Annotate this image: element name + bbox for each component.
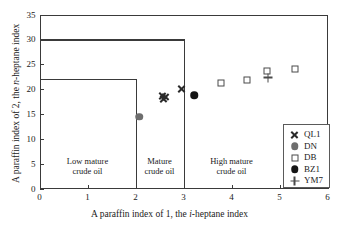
data-point-ym7 xyxy=(263,73,272,82)
data-point-dn xyxy=(136,113,144,121)
scatter-chart: 012345605101520253035 Low maturecrude oi… xyxy=(0,0,339,230)
x-axis-title: A paraffin index of 1, the i-heptane ind… xyxy=(0,209,339,219)
data-point-ql1 xyxy=(177,84,186,93)
y-tick xyxy=(40,89,44,90)
legend-marker-glyph xyxy=(291,166,299,174)
y-tick xyxy=(40,139,44,140)
y-axis-title-part1: A paraffin index of 2, the xyxy=(11,84,21,182)
region-label: High maturecrude oil xyxy=(210,156,253,177)
boundary-line-horizontal xyxy=(40,39,184,40)
data-point-bz1 xyxy=(190,91,198,99)
x-tick xyxy=(88,185,89,189)
legend-label: YM7 xyxy=(304,175,323,186)
y-tick-label: 35 xyxy=(18,10,36,19)
y-tick xyxy=(40,164,44,165)
legend-marker-dn xyxy=(289,141,300,152)
data-point-ql1 xyxy=(161,93,170,102)
legend-marker-ql1 xyxy=(289,129,300,140)
legend-label: DB xyxy=(304,152,317,163)
x-axis-title-part2: -heptane index xyxy=(192,209,248,219)
region-label-line2: crude oil xyxy=(210,166,253,177)
region-label-line1: Low mature xyxy=(67,156,108,167)
boundary-line-horizontal xyxy=(40,79,136,80)
x-tick-label: 1 xyxy=(85,193,90,202)
legend-marker-glyph xyxy=(290,176,299,185)
x-tick-label: 0 xyxy=(37,193,42,202)
legend-marker-bz1 xyxy=(289,164,300,175)
legend-item-ql1[interactable]: QL1 xyxy=(289,129,321,140)
chart-legend: QL1DNDBBZ1YM7 xyxy=(283,124,330,188)
x-tick-label: 3 xyxy=(181,193,186,202)
y-axis-title-part2: -heptane index xyxy=(11,23,21,79)
y-tick-label: 0 xyxy=(18,184,36,193)
legend-item-bz1[interactable]: BZ1 xyxy=(289,164,320,175)
y-tick xyxy=(40,15,44,16)
legend-marker-glyph xyxy=(290,130,299,139)
legend-marker-glyph xyxy=(291,142,299,150)
legend-label: DN xyxy=(304,141,317,152)
region-label-line2: crude oil xyxy=(67,166,108,177)
data-point-db xyxy=(292,65,299,72)
data-point-db xyxy=(243,77,250,84)
x-tick xyxy=(232,185,233,189)
legend-item-db[interactable]: DB xyxy=(289,152,317,163)
y-tick xyxy=(40,114,44,115)
legend-item-dn[interactable]: DN xyxy=(289,141,317,152)
region-label-line2: crude oil xyxy=(145,166,175,177)
legend-marker-ym7 xyxy=(289,175,300,186)
y-axis-title-italic: n xyxy=(11,80,21,85)
legend-label: QL1 xyxy=(304,129,321,140)
x-tick-label: 4 xyxy=(229,193,234,202)
boundary-line-vertical xyxy=(136,79,137,188)
region-label: Maturecrude oil xyxy=(145,156,175,177)
x-axis-title-part1: A paraffin index of 1, the xyxy=(91,209,189,219)
legend-label: BZ1 xyxy=(304,164,320,175)
data-point-db xyxy=(217,80,224,87)
region-label-line1: Mature xyxy=(145,156,175,167)
y-tick xyxy=(40,64,44,65)
x-tick xyxy=(280,185,281,189)
region-label-line1: High mature xyxy=(210,156,253,167)
x-tick-label: 2 xyxy=(133,193,138,202)
legend-item-ym7[interactable]: YM7 xyxy=(289,175,323,186)
x-tick-label: 6 xyxy=(325,193,330,202)
legend-marker-glyph xyxy=(291,154,298,161)
region-label: Low maturecrude oil xyxy=(67,156,108,177)
y-axis-title: A paraffin index of 2, the n-heptane ind… xyxy=(11,23,21,182)
x-tick-label: 5 xyxy=(277,193,282,202)
legend-marker-db xyxy=(289,152,300,163)
boundary-line-vertical xyxy=(184,39,185,188)
y-tick xyxy=(40,189,44,190)
